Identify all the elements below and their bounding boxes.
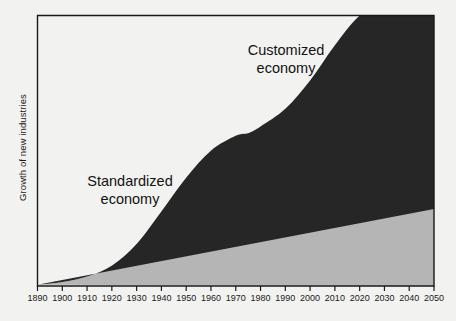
- x-tick-label-2050: 2050: [424, 293, 444, 303]
- x-tick-label-1890: 1890: [27, 293, 47, 303]
- annotation-standardized-line2: economy: [60, 190, 200, 208]
- annotation-customized-economy: Customized economy: [227, 41, 345, 77]
- x-tick-label-2030: 2030: [374, 293, 394, 303]
- x-tick-label-1950: 1950: [176, 293, 196, 303]
- x-tick-label-1930: 1930: [127, 293, 147, 303]
- annotation-customized-line2: economy: [227, 59, 345, 77]
- x-tick-label-1960: 1960: [201, 293, 221, 303]
- x-tick-label-2000: 2000: [300, 293, 320, 303]
- x-tick-label-1980: 1980: [251, 293, 271, 303]
- x-tick-label-2020: 2020: [350, 293, 370, 303]
- x-tick-label-1910: 1910: [77, 293, 97, 303]
- x-axis-ticks: [38, 286, 435, 291]
- x-tick-label-1970: 1970: [226, 293, 246, 303]
- annotation-standardized-economy: Standardized economy: [60, 172, 200, 208]
- x-tick-label-1990: 1990: [275, 293, 295, 303]
- x-tick-label-1920: 1920: [102, 293, 122, 303]
- x-tick-label-1900: 1900: [52, 293, 72, 303]
- annotation-standardized-line1: Standardized: [60, 172, 200, 190]
- x-tick-label-1940: 1940: [151, 293, 171, 303]
- chart-figure: Growth of new industries 189019001910192…: [0, 0, 456, 321]
- x-tick-label-2040: 2040: [399, 293, 419, 303]
- annotation-customized-line1: Customized: [227, 41, 345, 59]
- x-tick-label-2010: 2010: [325, 293, 345, 303]
